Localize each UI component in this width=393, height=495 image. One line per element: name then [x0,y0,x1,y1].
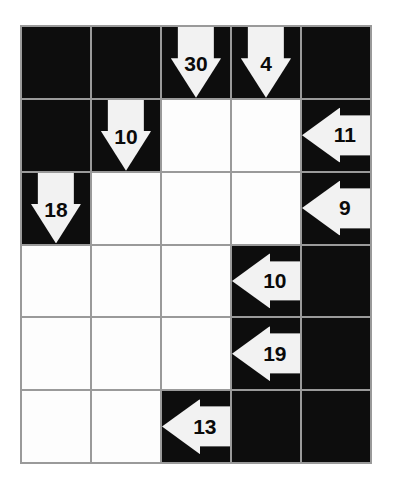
cell-r5c5 [302,318,370,389]
cell-r5c3[interactable] [162,318,230,389]
cell-r4c1[interactable] [22,246,90,317]
arrow-down-icon: 30 [171,27,221,98]
clue-left-10: 10 [232,246,300,317]
cell-r6c2[interactable] [92,391,160,462]
arrow-left-icon: 11 [302,108,370,163]
arrow-down-icon: 4 [241,27,291,98]
cell-r6c1[interactable] [22,391,90,462]
cell-r2c3[interactable] [162,100,230,171]
arrow-left-icon: 10 [232,253,300,308]
cell-r6c5 [302,391,370,462]
kakuro-grid: 3041011189101913 [20,25,372,464]
cell-r5c1[interactable] [22,318,90,389]
cell-r3c2[interactable] [92,173,160,244]
clue-down-30: 30 [162,27,230,98]
clue-value: 4 [241,27,291,98]
cell-r4c3[interactable] [162,246,230,317]
clue-left-11: 11 [302,100,370,171]
clue-value: 13 [162,399,230,454]
clue-down-4: 4 [232,27,300,98]
cell-r3c4[interactable] [232,173,300,244]
cell-r2c4[interactable] [232,100,300,171]
clue-down-10: 10 [92,100,160,171]
clue-value: 30 [171,27,221,98]
cell-r1c1 [22,27,90,98]
cell-r1c2 [92,27,160,98]
arrow-down-icon: 10 [101,100,151,171]
clue-down-18: 18 [22,173,90,244]
clue-value: 11 [302,108,370,163]
cell-r4c5 [302,246,370,317]
clue-value: 18 [31,173,81,244]
clue-left-9: 9 [302,173,370,244]
cell-r5c2[interactable] [92,318,160,389]
clue-value: 19 [232,326,300,381]
cell-r1c5 [302,27,370,98]
clue-value: 9 [302,180,370,235]
arrow-left-icon: 19 [232,326,300,381]
clue-value: 10 [232,253,300,308]
cell-r2c1 [22,100,90,171]
arrow-left-icon: 13 [162,399,230,454]
cell-r4c2[interactable] [92,246,160,317]
clue-value: 10 [101,100,151,171]
kakuro-puzzle-image: 3041011189101913 [0,0,393,495]
clue-left-19: 19 [232,318,300,389]
clue-left-13: 13 [162,391,230,462]
cell-r3c3[interactable] [162,173,230,244]
arrow-left-icon: 9 [302,180,370,235]
cell-r6c4 [232,391,300,462]
arrow-down-icon: 18 [31,173,81,244]
